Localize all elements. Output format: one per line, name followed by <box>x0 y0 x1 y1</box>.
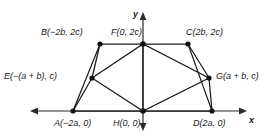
geometry-canvas <box>0 0 265 136</box>
vertex-dot-C <box>185 41 190 46</box>
y-axis-arrow-up <box>140 12 147 20</box>
x-axis-arrow-left <box>30 108 38 115</box>
vertex-dot-H <box>140 108 146 114</box>
point-label-F: F(0, 2c) <box>111 27 142 37</box>
x-axis-arrow-right <box>239 108 247 115</box>
point-label-C: C(2b, 2c) <box>186 27 223 37</box>
segment-A-E <box>73 78 92 111</box>
y-axis-arrow-down <box>140 123 147 131</box>
vertex-dot-E <box>89 75 94 80</box>
point-label-B: B(−2b, 2c) <box>41 27 83 37</box>
vertex-dot-G <box>206 75 211 80</box>
y-axis-label: y <box>133 9 138 19</box>
vertex-dot-D <box>209 108 214 113</box>
point-label-E: E(−(a + b), c) <box>4 71 57 81</box>
x-axis-label: x <box>249 115 254 125</box>
vertex-dot-B <box>97 41 102 46</box>
vertex-dot-F <box>140 41 146 47</box>
vertex-dot-A <box>70 108 75 113</box>
point-label-A: A(−2a, 0) <box>54 118 91 128</box>
geometry-figure: B(−2b, 2c) F(0, 2c) C(2b, 2c) E(−(a + b)… <box>0 0 265 136</box>
point-label-H: H(0, 0) <box>113 118 141 128</box>
point-label-D: D(2a, 0) <box>193 118 226 128</box>
point-label-G: G(a + b, c) <box>216 71 259 81</box>
